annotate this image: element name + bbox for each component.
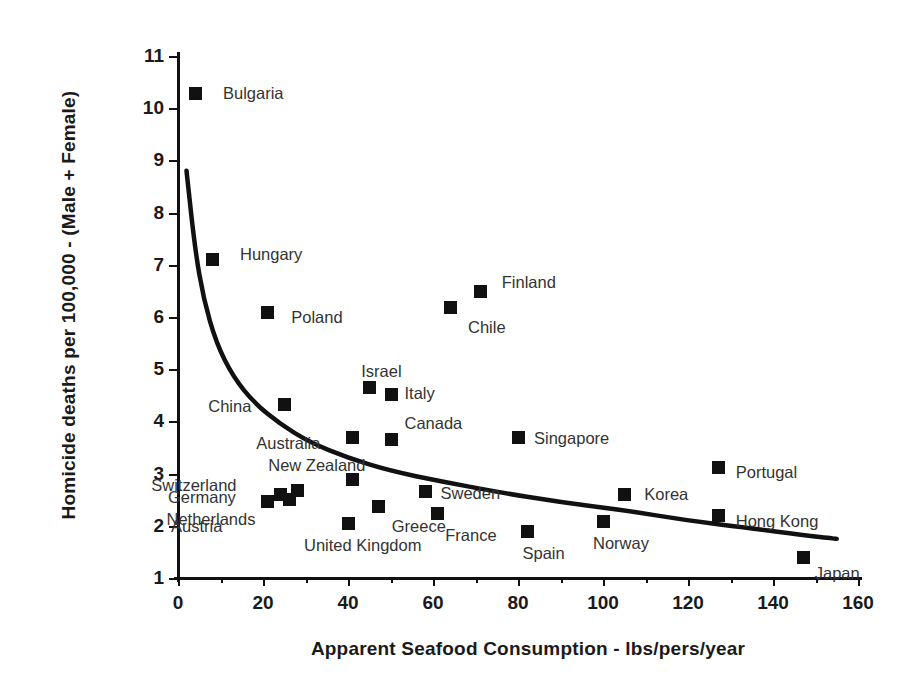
data-point-marker — [372, 500, 385, 513]
data-point-marker — [431, 507, 444, 520]
data-point-label: Germany — [168, 489, 236, 506]
y-tick-label: 6 — [124, 306, 164, 328]
data-point-label: Norway — [593, 535, 649, 552]
y-tick-label: 2 — [124, 515, 164, 537]
x-tick-label: 140 — [743, 592, 803, 614]
data-point-label: Greece — [392, 518, 446, 535]
data-point-marker — [363, 381, 376, 394]
data-point-marker — [512, 431, 525, 444]
data-point-label: Hong Kong — [736, 513, 819, 530]
x-tick-label: 80 — [488, 592, 548, 614]
y-tick-label: 5 — [124, 358, 164, 380]
data-point-marker — [419, 485, 432, 498]
y-tick — [169, 578, 178, 580]
data-point-marker — [189, 87, 202, 100]
data-point-marker — [618, 488, 631, 501]
data-point-marker — [597, 515, 610, 528]
data-point-marker — [342, 517, 355, 530]
data-point-marker — [521, 525, 534, 538]
y-tick-label: 4 — [124, 410, 164, 432]
data-point-label: United Kingdom — [304, 537, 421, 554]
scatter-chart: Homicide deaths per 100,000 - (Male + Fe… — [0, 0, 899, 695]
x-tick — [263, 577, 265, 586]
data-point-label: China — [208, 398, 251, 415]
data-point-label: Spain — [523, 545, 565, 562]
data-point-marker — [385, 388, 398, 401]
x-tick — [688, 577, 690, 586]
x-tick-minor — [306, 577, 308, 583]
y-tick-label: 8 — [124, 202, 164, 224]
x-tick — [178, 577, 180, 586]
x-tick-minor — [221, 577, 223, 583]
x-tick-label: 120 — [658, 592, 718, 614]
data-point-marker — [206, 253, 219, 266]
x-tick-label: 160 — [828, 592, 888, 614]
x-tick-label: 100 — [573, 592, 633, 614]
x-tick — [433, 577, 435, 586]
data-point-marker — [797, 551, 810, 564]
x-tick-label: 40 — [318, 592, 378, 614]
data-point-marker — [291, 484, 304, 497]
data-point-label: Poland — [291, 309, 342, 326]
data-point-label: Italy — [405, 385, 435, 402]
x-tick — [603, 577, 605, 586]
x-tick-minor — [391, 577, 393, 583]
data-point-label: Finland — [502, 274, 556, 291]
data-point-marker — [712, 461, 725, 474]
x-tick-label: 60 — [403, 592, 463, 614]
y-tick-label: 11 — [124, 45, 164, 67]
data-point-marker — [261, 495, 274, 508]
y-tick — [169, 369, 178, 371]
data-point-label: Japan — [815, 565, 860, 582]
data-point-label: Singapore — [534, 430, 609, 447]
data-point-label: Korea — [644, 486, 688, 503]
data-point-label: Sweden — [441, 485, 501, 502]
data-point-label: New Zealand — [268, 457, 365, 474]
data-point-label: Israel — [361, 363, 401, 380]
x-tick-label: 20 — [233, 592, 293, 614]
data-point-label: France — [445, 527, 496, 544]
y-tick-label: 7 — [124, 254, 164, 276]
x-tick-minor — [561, 577, 563, 583]
data-point-marker — [346, 431, 359, 444]
x-tick-minor — [731, 577, 733, 583]
data-point-label: Bulgaria — [223, 85, 284, 102]
data-point-marker — [385, 433, 398, 446]
y-tick — [169, 265, 178, 267]
data-point-label: Australia — [256, 435, 320, 452]
y-tick — [169, 108, 178, 110]
x-axis-title: Apparent Seafood Consumption - lbs/pers/… — [178, 638, 878, 660]
data-point-marker — [444, 301, 457, 314]
data-point-marker — [278, 398, 291, 411]
y-tick — [169, 160, 178, 162]
y-tick-label: 1 — [124, 567, 164, 589]
y-tick — [169, 56, 178, 58]
x-tick-label: 0 — [148, 592, 208, 614]
data-point-marker — [261, 306, 274, 319]
x-tick-minor — [646, 577, 648, 583]
x-tick — [348, 577, 350, 586]
y-axis-title: Homicide deaths per 100,000 - (Male + Fe… — [46, 5, 92, 605]
plot-area: 1234567891011020406080100120140160 Bulga… — [178, 56, 858, 578]
y-tick — [169, 421, 178, 423]
data-point-label: Hungary — [240, 246, 302, 263]
data-point-label: Chile — [468, 319, 506, 336]
data-point-marker — [474, 285, 487, 298]
data-point-label: Portugal — [736, 464, 797, 481]
x-tick — [518, 577, 520, 586]
x-tick-minor — [476, 577, 478, 583]
y-tick-label: 10 — [124, 97, 164, 119]
y-tick-label: 9 — [124, 149, 164, 171]
data-point-label: Austria — [171, 518, 222, 535]
data-point-marker — [712, 509, 725, 522]
data-point-label: Canada — [405, 415, 463, 432]
y-tick — [169, 213, 178, 215]
x-tick — [773, 577, 775, 586]
data-point-marker — [346, 473, 359, 486]
y-tick — [169, 317, 178, 319]
